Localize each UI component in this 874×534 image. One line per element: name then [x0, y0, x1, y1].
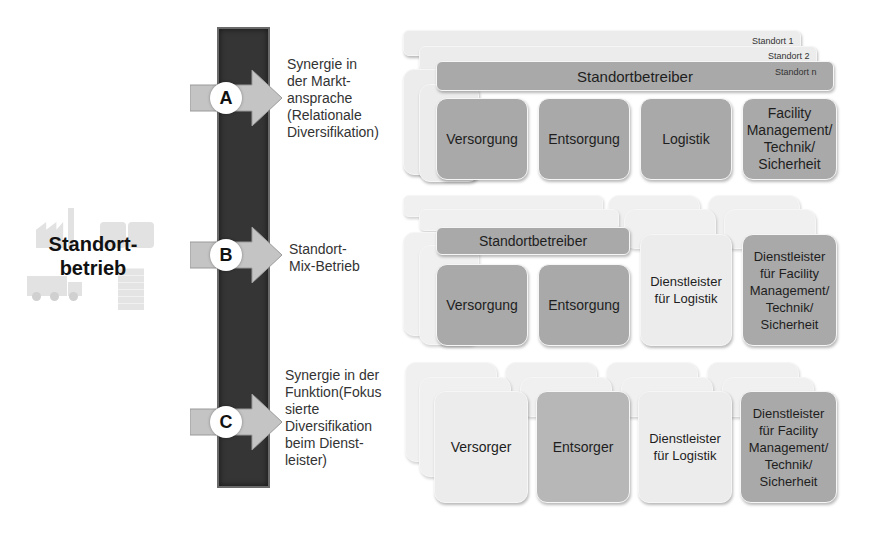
- option-a-description: Synergie in der Markt- ansprache (Relati…: [287, 56, 379, 141]
- option-a-badge: A: [210, 82, 242, 114]
- option-c-description: Synergie in der Funktion(Fokus sierte Di…: [285, 367, 381, 469]
- service-provider-facility: Dienstleister für Facility Management/ T…: [742, 234, 837, 346]
- site-1-label: Standort 1: [752, 36, 794, 46]
- function-box-entsorgung: Entsorgung: [538, 98, 630, 180]
- function-box-facility: Facility Management/ Technik/ Sicherheit: [742, 98, 837, 180]
- option-c-badge: C: [210, 406, 242, 438]
- provider-box-entsorger: Entsorger: [536, 391, 630, 503]
- function-box-versorgung: Versorgung: [436, 98, 528, 180]
- option-a-arrow[interactable]: A: [190, 70, 282, 126]
- main-title: Standort- betrieb: [38, 232, 148, 280]
- operator-bar: Standortbetreiber: [436, 227, 630, 255]
- option-b-description: Standort- Mix-Betrieb: [289, 241, 360, 275]
- site-2-label: Standort 2: [768, 51, 810, 61]
- provider-box-versorger: Versorger: [434, 391, 528, 503]
- service-provider-logistics: Dienstleister für Logistik: [640, 234, 732, 346]
- option-c-arrow[interactable]: C: [190, 394, 282, 450]
- option-b-arrow[interactable]: B: [190, 227, 282, 283]
- provider-box-logistics: Dienstleister für Logistik: [638, 391, 732, 503]
- provider-box-facility: Dienstleister für Facility Management/ T…: [740, 391, 837, 503]
- site-n-label: Standort n: [775, 67, 817, 77]
- option-b-badge: B: [210, 239, 242, 271]
- function-box-versorgung: Versorgung: [436, 264, 528, 346]
- function-box-entsorgung: Entsorgung: [538, 264, 630, 346]
- function-box-logistik: Logistik: [640, 98, 732, 180]
